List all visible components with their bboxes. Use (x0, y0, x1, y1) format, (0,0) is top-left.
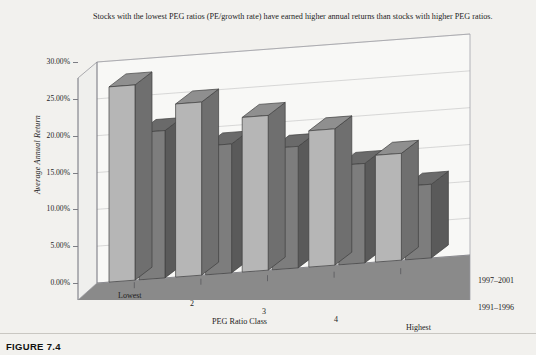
bar-Highest-1997-2001 (375, 140, 418, 262)
y-tick-mark-5 (73, 99, 78, 100)
caption-divider (0, 333, 536, 334)
x-axis-title: PEG Ratio Class (212, 317, 267, 326)
y-tick-mark-1 (73, 246, 78, 247)
y-tick-label-0: 0.00% (18, 278, 70, 287)
bar-4-1997-2001 (309, 116, 352, 267)
chart-plot-area (0, 0, 536, 335)
y-tick-mark-6 (73, 62, 78, 63)
series-label-1991-1996: 1991–1996 (478, 303, 514, 312)
y-tick-label-4: 20.00% (18, 131, 70, 140)
bar-2-1997-2001 (176, 89, 219, 277)
y-tick-mark-0 (73, 283, 78, 284)
y-tick-label-6: 30.00% (18, 57, 70, 66)
x-tick-label-highest: Highest (406, 323, 431, 332)
y-tick-label-3: 15.00% (18, 168, 70, 177)
figure-container: Stocks with the lowest PEG ratios (PE/gr… (0, 0, 536, 355)
x-tick-label-lowest: Lowest (118, 291, 142, 300)
chart-left-wall (78, 62, 97, 300)
y-tick-mark-3 (73, 173, 78, 174)
figure-caption: FIGURE 7.4 (6, 341, 61, 352)
x-tick-label-2: 2 (190, 299, 194, 308)
y-tick-mark-2 (73, 209, 78, 210)
y-tick-label-1: 5.00% (18, 241, 70, 250)
bar-3-1997-2001 (242, 102, 285, 272)
y-tick-label-5: 25.00% (18, 94, 70, 103)
bar-Lowest-1997-2001 (109, 72, 152, 282)
x-tick-label-3: 3 (262, 307, 266, 316)
y-tick-label-2: 10.00% (18, 204, 70, 213)
x-tick-label-4: 4 (334, 315, 338, 324)
y-tick-mark-4 (73, 136, 78, 137)
series-label-1997-2001: 1997–2001 (478, 276, 514, 285)
